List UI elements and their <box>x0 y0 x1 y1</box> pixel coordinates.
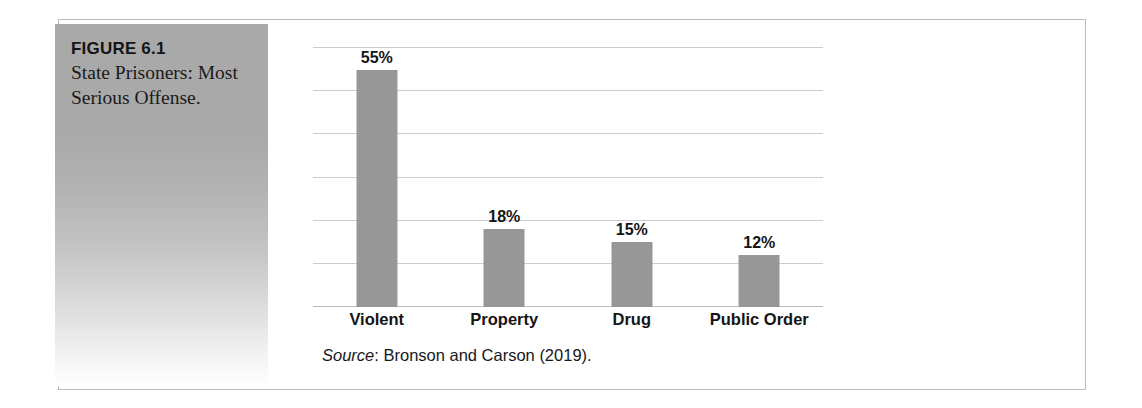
bar-value-label: 12% <box>743 234 775 252</box>
figure-caption-panel: FIGURE 6.1 State Prisoners: Most Serious… <box>55 24 268 386</box>
x-axis-category-labels: ViolentPropertyDrugPublic Order <box>313 310 823 338</box>
bar-group: 18% <box>441 38 569 307</box>
source-citation: : Bronson and Carson (2019). <box>374 346 591 364</box>
bar-series: 55%18%15%12% <box>313 38 823 307</box>
bar <box>356 70 397 307</box>
category-label: Public Order <box>710 310 809 329</box>
bar-group: 55% <box>313 38 441 307</box>
bar-value-label: 18% <box>488 208 520 226</box>
category-label: Property <box>470 310 538 329</box>
bar-group: 12% <box>696 38 824 307</box>
plot-area: 55%18%15%12% <box>313 38 823 307</box>
bar <box>739 255 780 307</box>
source-label: Source <box>322 346 374 364</box>
source-note: Source: Bronson and Carson (2019). <box>322 346 592 365</box>
category-label: Violent <box>349 310 404 329</box>
figure-title: State Prisoners: Most Serious Offense. <box>71 61 246 111</box>
category-label: Drug <box>613 310 652 329</box>
bar-value-label: 55% <box>361 49 393 67</box>
bar-group: 15% <box>568 38 696 307</box>
bar <box>484 229 525 307</box>
bar-value-label: 15% <box>616 221 648 239</box>
bar <box>611 242 652 307</box>
bar-chart: 55%18%15%12% ViolentPropertyDrugPublic O… <box>313 38 825 383</box>
figure-number: FIGURE 6.1 <box>71 38 258 59</box>
